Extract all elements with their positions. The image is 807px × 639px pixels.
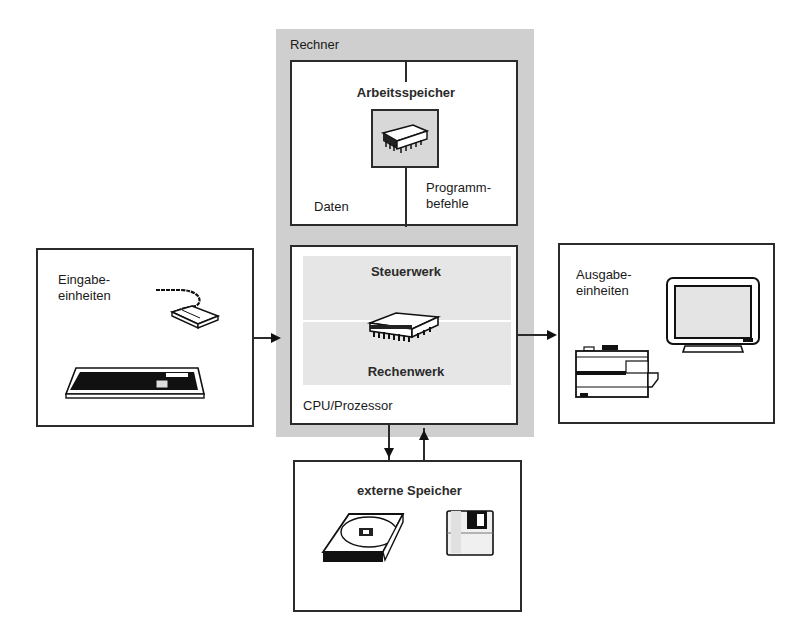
printer-icon <box>572 343 662 403</box>
monitor-icon <box>663 274 763 359</box>
storage-label: externe Speicher <box>295 483 524 499</box>
cpu-label: CPU/Prozessor <box>303 398 393 414</box>
arrow-cpu-to-output <box>517 329 559 341</box>
input-box: Eingabe- einheiten <box>36 248 254 427</box>
control-unit-label: Steuerwerk <box>292 264 520 280</box>
rechner-title: Rechner <box>290 37 339 53</box>
mouse-icon <box>152 286 232 336</box>
output-label: Ausgabe- einheiten <box>576 267 632 299</box>
memory-divider-top <box>405 62 407 82</box>
cpu-chip-icon <box>364 305 444 345</box>
memory-chip-icon <box>373 111 437 166</box>
cpu-box: Steuerwerk Rechenwerk CPU/Prozessor <box>290 245 518 425</box>
arrow-cpu-to-storage <box>383 424 395 462</box>
arrow-input-to-cpu <box>253 332 293 344</box>
keyboard-icon <box>62 364 212 404</box>
output-box: Ausgabe- einheiten <box>558 243 775 424</box>
memory-divider-bottom <box>405 167 407 227</box>
memory-chip-frame <box>371 109 439 168</box>
memory-data-label: Daten <box>314 199 349 215</box>
memory-box: Arbeitsspeicher Daten Programm- befehle <box>290 60 518 226</box>
floppy-disk-icon <box>445 507 495 557</box>
memory-instructions-label: Programm- befehle <box>426 180 491 212</box>
hard-disk-icon <box>319 510 409 565</box>
memory-label: Arbeitsspeicher <box>292 85 520 101</box>
alu-label: Rechenwerk <box>292 364 520 380</box>
arrow-storage-to-cpu <box>418 424 430 462</box>
storage-box: externe Speicher <box>293 460 522 612</box>
input-label: Eingabe- einheiten <box>58 272 111 304</box>
